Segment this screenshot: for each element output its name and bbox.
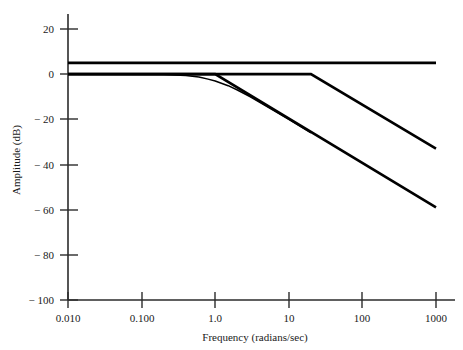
curve-actual-response [68,74,311,133]
y-axis-title: Amplitude (dB) [10,125,23,195]
y-tick-label: − 80 [34,249,54,261]
x-axis-title: Frequency (radians/sec) [202,331,308,344]
y-tick-label: − 100 [29,294,55,306]
data-curves [68,63,436,208]
x-tick-label: 1000 [425,312,448,324]
y-axis-ticks [60,29,78,300]
y-tick-label: − 20 [34,113,54,125]
curve-asymptote-two-break [68,74,436,149]
y-tick-label: − 60 [34,204,54,216]
x-tick-label: 100 [354,312,371,324]
x-tick-label: 10 [284,312,296,324]
y-tick-label: − 40 [34,159,54,171]
x-tick-label: 0.100 [130,312,155,324]
y-axis-tick-labels: 20 0 − 20 − 40 − 60 − 80 − 100 [29,23,55,306]
bode-magnitude-plot: 20 0 − 20 − 40 − 60 − 80 − 100 0.010 0.1… [0,0,463,350]
y-tick-label: 20 [43,23,55,35]
x-tick-label: 1.0 [208,312,222,324]
y-tick-label: 0 [49,68,55,80]
plot-svg: 20 0 − 20 − 40 − 60 − 80 − 100 0.010 0.1… [0,0,463,350]
x-axis-tick-labels: 0.010 0.100 1.0 10 100 1000 [56,312,448,324]
x-tick-label: 0.010 [56,312,81,324]
curve-asymptote-single-break [68,74,436,207]
